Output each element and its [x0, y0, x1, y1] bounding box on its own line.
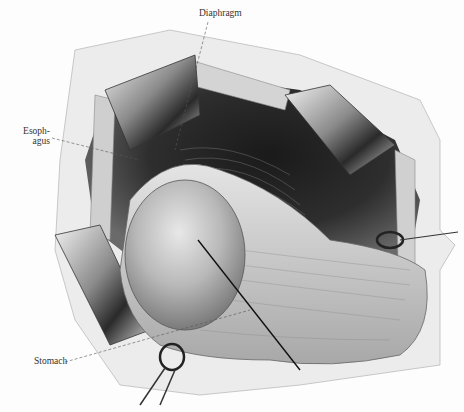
label-esophagus: Esoph- agus: [12, 126, 50, 146]
label-diaphragm: Diaphragm: [199, 8, 242, 18]
illustration-canvas: Diaphragm Esoph- agus Stomach: [0, 0, 464, 412]
label-esophagus-line1: Esoph-: [12, 126, 50, 136]
label-stomach: Stomach: [34, 356, 67, 366]
surgical-illustration: [0, 0, 464, 412]
label-esophagus-line2: agus: [12, 136, 50, 146]
